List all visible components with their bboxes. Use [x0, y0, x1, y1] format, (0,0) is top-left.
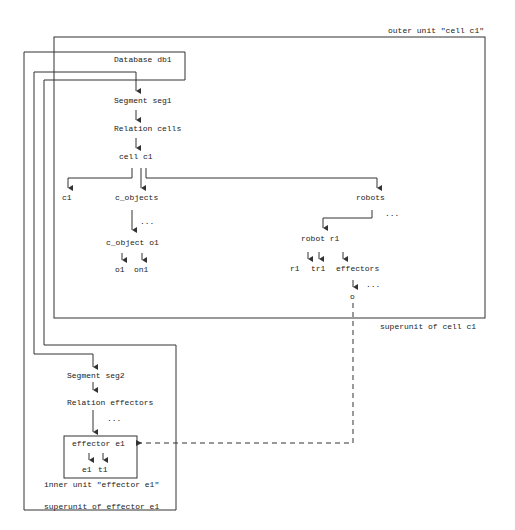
t1-node: t1 [98, 465, 108, 475]
effectors-more: ... [366, 280, 380, 290]
segment1-node: Segment seg1 [114, 96, 172, 106]
o1-node: o1 [115, 265, 125, 275]
superunit-cell-label: superunit of cell c1 [380, 322, 476, 332]
robot-node: robot r1 [301, 234, 339, 244]
c-object-node: c_object o1 [106, 238, 159, 248]
e1-node: e1 [82, 465, 92, 475]
unit-hierarchy-diagram: outer unit "cell c1" Database db1 Segmen… [0, 0, 515, 530]
robots-more: ... [385, 209, 399, 219]
db-to-seg2-line [34, 72, 136, 367]
on1-node: on1 [134, 265, 148, 275]
diagram-lines [0, 0, 515, 530]
reference-link [137, 303, 353, 443]
outer-unit-label: outer unit "cell c1" [388, 26, 484, 36]
inner-unit-label: inner unit "effector e1" [44, 480, 159, 490]
database-node: Database db1 [114, 55, 172, 65]
o-node: o [350, 292, 355, 302]
relation-effectors-node: Relation effectors [67, 398, 153, 408]
c-objects-more: ... [140, 217, 154, 227]
cell-node: cell c1 [119, 152, 153, 162]
segment2-node: Segment seg2 [67, 371, 125, 381]
relation-effectors-more: ... [107, 414, 121, 424]
r1-node: r1 [290, 264, 300, 274]
tr1-node: tr1 [311, 264, 325, 274]
effectors-node: effectors [336, 264, 379, 274]
c1-node: c1 [62, 193, 72, 203]
relation-cells-node: Relation cells [114, 124, 181, 134]
superunit-effector-label: superunit of effector e1 [44, 502, 159, 512]
robots-node: robots [356, 193, 385, 203]
c-objects-node: c_objects [115, 193, 158, 203]
effector-node: effector e1 [72, 439, 125, 449]
